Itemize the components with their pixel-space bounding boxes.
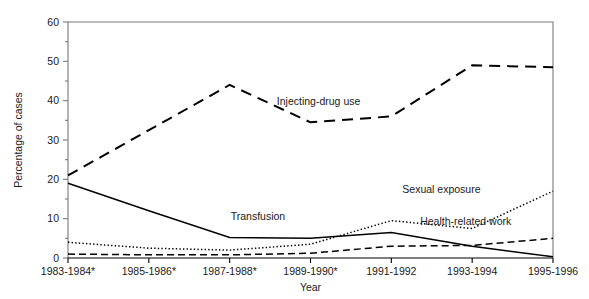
x-tick-label: 1983-1984* bbox=[41, 265, 95, 277]
y-tick-label: 60 bbox=[47, 16, 59, 28]
series-label-injecting-drug-use: Injecting-drug use bbox=[277, 95, 361, 107]
x-tick-label: 1995-1996 bbox=[528, 265, 578, 277]
x-axis: 1983-1984*1985-1986*1987-1988*1989-1990*… bbox=[41, 258, 578, 293]
x-tick-label: 1993-1994 bbox=[447, 265, 497, 277]
y-tick-label: 0 bbox=[53, 252, 59, 264]
y-axis: 0102030405060Percentage of cases bbox=[12, 16, 68, 264]
x-tick-label: 1989-1990* bbox=[283, 265, 337, 277]
y-tick-label: 40 bbox=[47, 94, 59, 106]
x-tick-label: 1985-1986* bbox=[122, 265, 176, 277]
line-chart: 0102030405060Percentage of cases1983-198… bbox=[0, 0, 589, 299]
series-label-health-related-work: Health-related work bbox=[420, 215, 512, 227]
x-tick-label: 1991-1992 bbox=[366, 265, 416, 277]
x-tick-label: 1987-1988* bbox=[203, 265, 257, 277]
chart-container: 0102030405060Percentage of cases1983-198… bbox=[0, 0, 589, 299]
series-label-sexual-exposure: Sexual exposure bbox=[402, 183, 480, 195]
y-tick-label: 30 bbox=[47, 134, 59, 146]
y-tick-label: 50 bbox=[47, 55, 59, 67]
x-axis-title: Year bbox=[300, 281, 322, 293]
y-tick-label: 20 bbox=[47, 173, 59, 185]
series-line-injecting-drug-use bbox=[68, 65, 553, 175]
y-axis-title: Percentage of cases bbox=[12, 92, 24, 188]
series-label-transfusion: Transfusion bbox=[231, 210, 286, 222]
y-tick-label: 10 bbox=[47, 212, 59, 224]
